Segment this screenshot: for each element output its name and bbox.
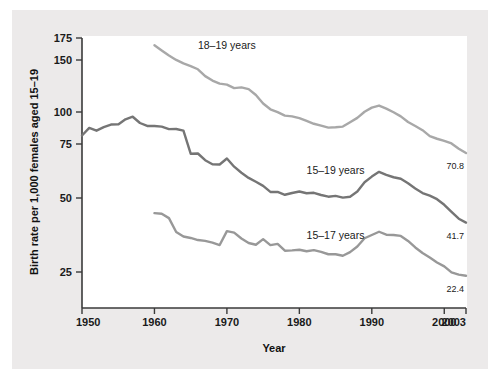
line-chart: 255075100150175 195019601970198019902000…	[0, 0, 501, 379]
end-value-label-0: 70.8	[446, 161, 464, 171]
x-tick-label: 2003	[442, 316, 466, 328]
series-line-1	[82, 117, 466, 223]
y-tick-label: 150	[54, 54, 72, 66]
end-value-label-2: 22.4	[446, 284, 464, 294]
y-tick-label: 100	[54, 106, 72, 118]
series-line-2	[154, 213, 466, 276]
end-value-label-1: 41.7	[446, 231, 464, 241]
x-tick-label: 1950	[76, 316, 100, 328]
series-label-1: 15–19 years	[307, 164, 365, 176]
y-tick-label: 50	[60, 192, 72, 204]
series-label-2: 15–17 years	[307, 229, 365, 241]
x-tick-label: 1960	[142, 316, 166, 328]
series-label-group: 18–19 years15–19 years15–17 years	[198, 39, 364, 242]
y-tick-label: 25	[60, 266, 72, 278]
y-axis-title: Birth rate per 1,000 females aged 15–19	[28, 69, 40, 275]
y-tick-label: 175	[54, 32, 72, 44]
series-label-0: 18–19 years	[198, 39, 256, 51]
x-tick-label: 1980	[287, 316, 311, 328]
y-tick-label: 75	[60, 138, 72, 150]
x-tick-label: 1990	[360, 316, 384, 328]
y-axis: 255075100150175	[54, 32, 82, 308]
x-axis: 1950196019701980199020002003	[76, 308, 466, 328]
data-series-group	[82, 45, 466, 275]
x-tick-label: 1970	[215, 316, 239, 328]
x-axis-title: Year	[262, 342, 286, 354]
chart-figure: 255075100150175 195019601970198019902000…	[0, 0, 501, 379]
series-line-0	[154, 45, 466, 153]
